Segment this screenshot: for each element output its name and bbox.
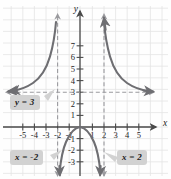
y-tick-label: 5: [71, 64, 75, 74]
branch-middle-arrow-left-down: [59, 166, 60, 175]
x-tick-label: -3: [42, 130, 49, 140]
x-tick-label: -4: [31, 130, 39, 140]
y-tick-label-negative: -3: [68, 157, 75, 167]
y-tick-label: 7: [71, 41, 75, 51]
branch-middle-arrow-right-down: [100, 166, 101, 175]
vertical-asymptote-right-callout: x = 2: [117, 150, 147, 165]
x-tick-label: 5: [137, 130, 141, 140]
vertical-asymptote-left-callout: x = -2: [10, 150, 43, 165]
branch-left-arrow-left: [9, 91, 17, 92]
horizontal-asymptote-callout: y = 3: [10, 95, 40, 110]
x-tick-label: -5: [19, 130, 26, 140]
y-tick-label: 1: [71, 110, 75, 120]
x-axis-label: x: [162, 118, 168, 128]
branch-right-arrow-right: [144, 91, 153, 92]
graph-figure: -5 -4 -3 -2 -1 1 2 3 4 5 1 2 3 4 5 6 7 -…: [0, 0, 171, 179]
y-axis-label: y: [73, 4, 79, 14]
y-tick-label: 2: [71, 99, 75, 109]
y-tick-label: 6: [71, 52, 75, 62]
x-tick-label: 3: [113, 130, 117, 140]
y-tick-label-negative: -2: [68, 145, 75, 155]
x-tick-label: 4: [125, 130, 130, 140]
